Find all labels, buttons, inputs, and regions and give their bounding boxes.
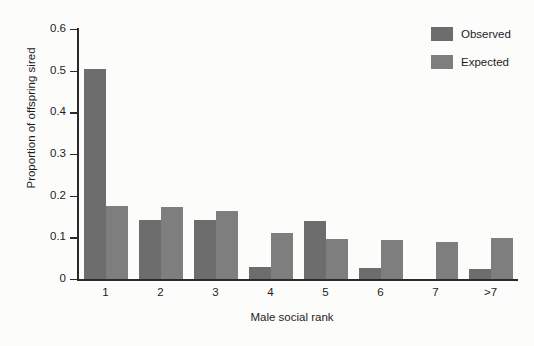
y-axis-tick — [70, 29, 77, 30]
x-axis-tick-label: 2 — [141, 286, 181, 298]
x-axis-line — [77, 279, 518, 281]
y-axis-tick — [70, 196, 77, 197]
x-axis-tick-label: 6 — [361, 286, 401, 298]
bar-expected-gt7 — [491, 238, 513, 279]
y-axis-tick — [70, 154, 77, 155]
x-axis-tick-label: 5 — [306, 286, 346, 298]
bar-observed-1 — [84, 69, 106, 279]
bar-expected-6 — [381, 240, 403, 279]
bar-expected-3 — [216, 211, 238, 279]
x-axis-tick-label: 1 — [86, 286, 126, 298]
chart-legend: Observed Expected — [431, 26, 511, 82]
bar-expected-1 — [106, 206, 128, 279]
y-axis-title: Proportion of offspring sired — [25, 3, 37, 233]
bar-expected-7 — [436, 242, 458, 279]
legend-item-observed[interactable]: Observed — [431, 26, 511, 41]
x-axis-tick-label: 3 — [196, 286, 236, 298]
bar-observed-4 — [249, 267, 271, 280]
bar-observed-6 — [359, 268, 381, 279]
chart-figure: 00.10.20.30.40.50.6 1234567>7 Proportion… — [0, 0, 534, 346]
y-axis-tick-label: 0 — [26, 273, 66, 285]
legend-swatch-observed — [431, 27, 453, 41]
bar-expected-4 — [271, 233, 293, 279]
bar-expected-5 — [326, 239, 348, 279]
bar-expected-2 — [161, 207, 183, 279]
legend-swatch-expected — [431, 55, 453, 69]
x-axis-title: Male social rank — [0, 311, 534, 323]
y-axis-tick — [70, 71, 77, 72]
legend-item-expected[interactable]: Expected — [431, 54, 511, 69]
x-axis-tick-label: >7 — [471, 286, 511, 298]
x-axis-tick-label: 7 — [416, 286, 456, 298]
y-axis-tick — [70, 237, 77, 238]
bar-observed-gt7 — [469, 269, 491, 279]
legend-label-observed: Observed — [461, 28, 511, 40]
x-axis-title-text: Male social rank — [250, 311, 333, 323]
y-axis-tick — [70, 112, 77, 113]
y-axis-tick-label: 0.1 — [26, 231, 66, 243]
bar-observed-3 — [194, 220, 216, 279]
bar-observed-5 — [304, 221, 326, 279]
bar-observed-2 — [139, 220, 161, 279]
x-axis-tick-label: 4 — [251, 286, 291, 298]
legend-label-expected: Expected — [461, 56, 509, 68]
y-axis-tick — [70, 279, 77, 280]
